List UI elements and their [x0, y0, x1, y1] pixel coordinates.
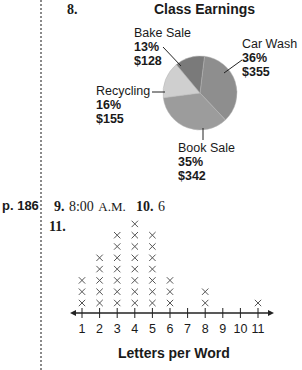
tick-label: 4: [131, 322, 138, 336]
x-mark: [149, 277, 155, 283]
x-mark: [132, 243, 138, 249]
x-mark: [149, 255, 155, 261]
x-mark: [114, 289, 120, 295]
axis-title: Letters per Word: [118, 345, 230, 361]
x-mark: [202, 289, 208, 295]
tick-label: 2: [96, 322, 103, 336]
x-mark: [96, 255, 102, 261]
x-mark: [96, 300, 102, 306]
x-mark: [167, 277, 173, 283]
x-mark: [132, 266, 138, 272]
x-mark: [96, 277, 102, 283]
x-mark: [202, 300, 208, 306]
tick-label: 3: [114, 322, 121, 336]
tick-label: 10: [233, 322, 247, 336]
x-mark: [149, 266, 155, 272]
x-mark: [149, 243, 155, 249]
arrow-left-icon: [70, 310, 76, 316]
x-mark: [132, 277, 138, 283]
x-mark: [149, 300, 155, 306]
tick-label: 1: [79, 322, 86, 336]
x-mark: [79, 289, 85, 295]
x-mark: [96, 289, 102, 295]
tick-label: 6: [167, 322, 174, 336]
x-mark: [114, 255, 120, 261]
arrow-right-icon: [268, 310, 274, 316]
x-mark: [114, 277, 120, 283]
tick-label: 8: [202, 322, 209, 336]
x-mark: [79, 300, 85, 306]
x-mark: [167, 300, 173, 306]
tick-label: 7: [184, 322, 191, 336]
x-mark: [114, 300, 120, 306]
x-mark: [96, 266, 102, 272]
x-mark: [132, 255, 138, 261]
x-mark: [149, 289, 155, 295]
line-plot: 1234567891011: [0, 0, 302, 370]
x-mark: [149, 232, 155, 238]
tick-label: 9: [219, 322, 226, 336]
tick-label: 5: [149, 322, 156, 336]
x-mark: [132, 221, 138, 227]
x-mark: [114, 266, 120, 272]
x-mark: [114, 243, 120, 249]
x-mark: [255, 300, 261, 306]
x-mark: [167, 289, 173, 295]
tick-label: 11: [252, 322, 265, 336]
x-mark: [114, 232, 120, 238]
x-mark: [79, 277, 85, 283]
x-mark: [132, 232, 138, 238]
x-mark: [132, 289, 138, 295]
x-mark: [132, 300, 138, 306]
